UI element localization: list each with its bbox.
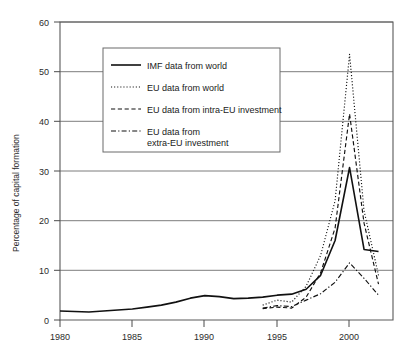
x-axis-ticks: 1980 1985 1990 1995 2000 — [50, 320, 359, 342]
legend-label-intra-eu: EU data from intra-EU investment — [147, 105, 282, 115]
legend-label-extra-eu-line2: extra-EU investment — [147, 138, 229, 148]
series-line-3 — [263, 263, 379, 308]
ytick-label-0: 0 — [44, 316, 49, 326]
xtick-label-1980: 1980 — [50, 332, 70, 342]
ytick-label-20: 20 — [39, 216, 49, 226]
xtick-label-2000: 2000 — [339, 332, 359, 342]
legend-label-eu-world: EU data from world — [147, 83, 224, 93]
xtick-label-1990: 1990 — [194, 332, 214, 342]
legend-label-extra-eu: EU data from — [147, 127, 200, 137]
chart-container: Percentage of capital formation 60 50 40… — [0, 0, 416, 362]
ytick-label-30: 30 — [39, 167, 49, 177]
y-axis-ticks: 60 50 40 30 20 10 0 — [39, 18, 60, 326]
ytick-label-10: 10 — [39, 266, 49, 276]
ytick-label-40: 40 — [39, 117, 49, 127]
xtick-label-1985: 1985 — [122, 332, 142, 342]
ytick-label-60: 60 — [39, 18, 49, 28]
xtick-label-1995: 1995 — [267, 332, 287, 342]
y-axis-title: Percentage of capital formation — [11, 134, 21, 252]
legend: IMF data from world EU data from world E… — [103, 48, 282, 152]
line-chart: Percentage of capital formation 60 50 40… — [0, 0, 416, 362]
ytick-label-50: 50 — [39, 67, 49, 77]
legend-label-imf: IMF data from world — [147, 61, 227, 71]
